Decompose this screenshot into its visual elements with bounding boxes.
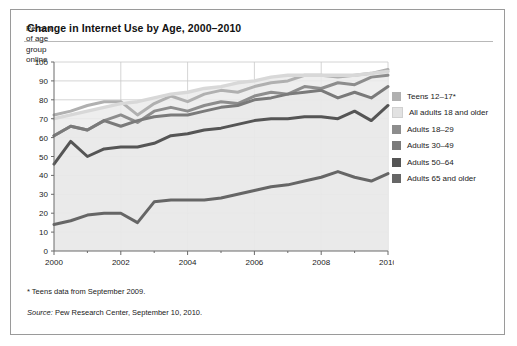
x-axis-tick-label: 2006 bbox=[246, 258, 264, 267]
y-axis-tick-label: 30 bbox=[39, 190, 48, 199]
y-axis-tick-label: 90 bbox=[39, 77, 48, 86]
y-axis-tick-label: 70 bbox=[39, 115, 48, 124]
y-axis-tick-label: 60 bbox=[39, 134, 48, 143]
chart-plot-area: 0102030405060708090100200020022004200620… bbox=[24, 42, 394, 270]
figure-card: Change in Internet Use by Age, 2000–2010… bbox=[10, 9, 505, 335]
legend-item[interactable]: Adults 50–64 bbox=[392, 154, 500, 170]
legend-swatch bbox=[392, 107, 403, 118]
y-axis-title-line-1: Percent bbox=[26, 24, 70, 34]
x-axis-tick-label: 2000 bbox=[45, 258, 63, 267]
y-axis-tick-label: 80 bbox=[39, 96, 48, 105]
legend-item-label: All adults 18 and older bbox=[409, 108, 488, 117]
legend-item-label: Adults 50–64 bbox=[407, 158, 454, 167]
line-chart-svg: 0102030405060708090100200020022004200620… bbox=[24, 42, 394, 270]
x-axis-tick-label: 2010 bbox=[379, 258, 394, 267]
legend-item[interactable]: Adults 30–49 bbox=[392, 138, 500, 154]
legend-swatch bbox=[392, 92, 401, 101]
y-axis-tick-label: 50 bbox=[39, 153, 48, 162]
legend-item[interactable]: Teens 12–17* bbox=[392, 88, 500, 104]
legend-item-label: Adults 30–49 bbox=[407, 141, 454, 150]
legend-swatch bbox=[392, 174, 401, 183]
legend-swatch bbox=[392, 125, 401, 134]
chart-legend: Teens 12–17*All adults 18 and olderAdult… bbox=[392, 88, 500, 187]
source-detail: Pew Research Center, September 10, 2010. bbox=[53, 308, 202, 317]
x-axis-tick-label: 2008 bbox=[312, 258, 330, 267]
source-text: Source: Pew Research Center, September 1… bbox=[27, 308, 202, 317]
legend-item-label: Adults 65 and older bbox=[407, 174, 476, 183]
footnote-text: * Teens data from September 2009. bbox=[27, 287, 145, 296]
y-axis-tick-label: 10 bbox=[39, 228, 48, 237]
y-axis-tick-label: 100 bbox=[35, 58, 49, 67]
y-axis-tick-label: 20 bbox=[39, 209, 48, 218]
legend-item[interactable]: Adults 18–29 bbox=[392, 121, 500, 137]
y-axis-tick-label: 40 bbox=[39, 171, 48, 180]
x-axis-tick-label: 2004 bbox=[179, 258, 197, 267]
legend-item-label: Teens 12–17* bbox=[407, 92, 456, 101]
legend-item[interactable]: All adults 18 and older bbox=[392, 105, 500, 121]
legend-item-label: Adults 18–29 bbox=[407, 125, 454, 134]
legend-item[interactable]: Adults 65 and older bbox=[392, 171, 500, 187]
source-label: Source: bbox=[27, 308, 53, 317]
x-axis-tick-label: 2002 bbox=[112, 258, 130, 267]
y-axis-tick-label: 0 bbox=[44, 247, 49, 256]
legend-swatch bbox=[392, 141, 401, 150]
legend-swatch bbox=[392, 158, 401, 167]
